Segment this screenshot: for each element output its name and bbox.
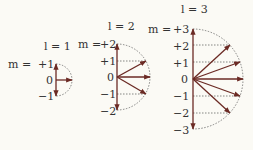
l2-m-plus1: +1: [100, 55, 116, 68]
l2-m-0: 0: [107, 71, 114, 84]
l3-arrow-minus1: [193, 79, 240, 96]
l3-m-minus3: −3: [173, 124, 189, 137]
diagram-canvas: l = 1 m = +1 0 −1 l = 2 m = +2 +1 0 −1 −…: [0, 0, 253, 150]
diagram-l1: l = 1 m = +1 0 −1: [8, 40, 72, 103]
l3-m-0: 0: [181, 73, 188, 86]
l1-label: l = 1: [44, 40, 71, 53]
l3-arrow-plus1: [193, 62, 240, 79]
l2-arrow-plus1: [117, 61, 146, 77]
diagram-l2: l = 2 m = +2 +1 0 −1 −2: [78, 20, 150, 118]
l1-m-plus1: +1: [38, 58, 54, 71]
l3-m-plus3: +3: [173, 23, 189, 36]
diagram-l3: l = 3 m = +3 +2 +1 0 −1 −2 −3: [148, 3, 243, 137]
l2-arrow-minus1: [117, 77, 146, 94]
l1-m-prefix: m =: [8, 58, 31, 71]
l3-m-minus1: −1: [173, 90, 189, 103]
l1-m-0: 0: [46, 74, 53, 87]
l2-m-prefix: m =: [78, 38, 101, 51]
l3-label: l = 3: [181, 3, 208, 16]
l3-m-minus2: −2: [173, 107, 189, 120]
l1-m-minus1: −1: [38, 90, 54, 103]
l2-label: l = 2: [108, 20, 135, 33]
l3-m-plus1: +1: [173, 57, 189, 70]
l3-m-plus2: +2: [173, 40, 189, 53]
l3-m-prefix: m =: [148, 23, 171, 36]
l2-m-plus2: +2: [100, 38, 116, 51]
l2-m-minus1: −1: [100, 88, 116, 101]
l2-m-minus2: −2: [100, 105, 116, 118]
